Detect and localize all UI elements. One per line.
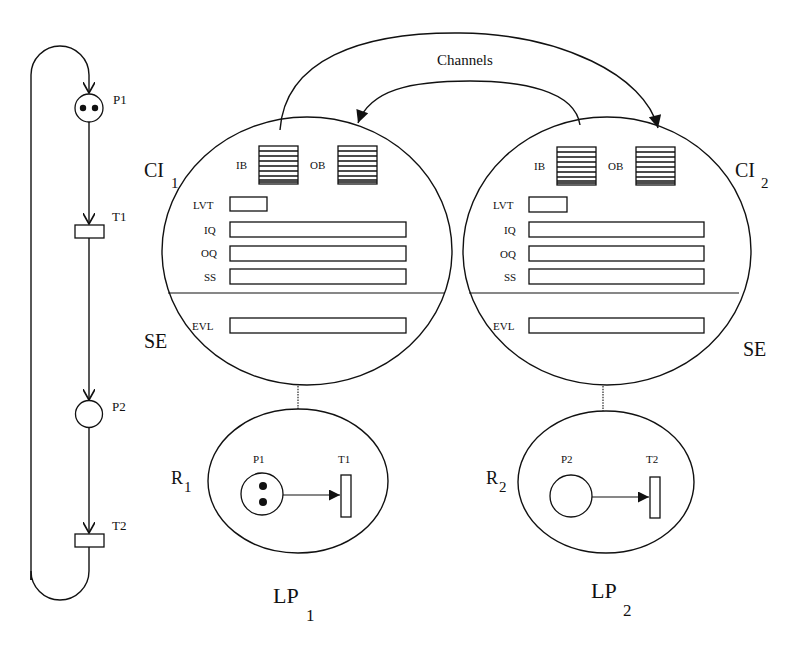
region-r1-transition-label: T1	[338, 453, 350, 465]
lvt-label-lp1: LVT	[193, 199, 214, 211]
evl-field-lp2	[529, 318, 704, 333]
region-r2-place	[550, 475, 592, 517]
oq-label-lp1: OQ	[201, 247, 217, 259]
transition-t1-label: T1	[112, 209, 126, 224]
token	[80, 105, 86, 111]
channel-lp2-to-lp1	[358, 81, 580, 125]
token	[259, 498, 267, 506]
region-r1-label: R	[171, 468, 183, 488]
region-r2-subscript: 2	[499, 479, 507, 495]
logical-process-lp1: CI 1 SE IB OB LV	[144, 117, 452, 625]
output-buffer-lp2	[636, 147, 675, 185]
oq-field-lp1	[230, 246, 406, 261]
ib-label-lp2: IB	[534, 160, 545, 172]
region-r1-place	[241, 473, 283, 515]
arc-t2-to-p1-top	[31, 46, 89, 580]
lp1-subscript: 1	[306, 606, 315, 625]
iq-label-lp1: IQ	[204, 224, 216, 236]
ci2-label: CI	[735, 159, 755, 181]
oq-label-lp2: OQ	[500, 248, 516, 260]
region-r1-subscript: 1	[184, 479, 192, 495]
lp1-label: LP	[273, 583, 299, 608]
region-r2-label: R	[486, 468, 498, 488]
input-buffer-lp2	[557, 147, 596, 185]
place-p2-label: P2	[112, 399, 126, 414]
transition-t1	[75, 225, 104, 238]
output-buffer-lp1	[338, 146, 377, 184]
input-buffer-lp1	[259, 146, 298, 184]
logical-process-lp2: CI 2 SE IB OB LVT	[463, 117, 769, 620]
region-r2-place-label: P2	[561, 453, 573, 465]
ss-label-lp2: SS	[504, 271, 516, 283]
se1-label: SE	[144, 330, 167, 352]
token	[259, 482, 267, 490]
ob-label-lp2: OB	[608, 160, 623, 172]
lvt-label-lp2: LVT	[493, 199, 514, 211]
iq-field-lp1	[230, 222, 406, 237]
lvt-field-lp2	[529, 197, 567, 212]
region-r2	[518, 411, 694, 553]
evl-field-lp1	[230, 318, 406, 333]
region-r2-transition-label: T2	[646, 453, 658, 465]
arc-t2-loop-bottom	[31, 547, 89, 600]
iq-field-lp2	[529, 222, 704, 237]
region-r1	[208, 409, 388, 553]
region-r1-transition	[341, 475, 351, 517]
global-petri-net: P1 T1 P2 T2	[31, 46, 127, 600]
evl-label-lp2: EVL	[493, 320, 515, 332]
ob-label-lp1: OB	[310, 159, 325, 171]
evl-label-lp1: EVL	[192, 320, 214, 332]
lp-petri-net-diagram: P1 T1 P2 T2 Channels CI 1 SE	[0, 0, 786, 657]
region-r2-transition	[650, 477, 660, 518]
lp2-label: LP	[591, 578, 617, 603]
channels-label: Channels	[437, 52, 493, 68]
transition-t2-label: T2	[112, 518, 126, 533]
ci1-label: CI	[144, 159, 164, 181]
ss-field-lp2	[529, 269, 704, 284]
transition-t2	[75, 534, 104, 547]
place-p1-label: P1	[113, 92, 127, 107]
ib-label-lp1: IB	[236, 159, 247, 171]
token	[92, 105, 98, 111]
ss-field-lp1	[230, 269, 406, 284]
se2-label: SE	[743, 338, 766, 360]
lp2-subscript: 2	[623, 601, 632, 620]
lvt-field-lp1	[230, 197, 267, 211]
region-r1-place-label: P1	[253, 453, 265, 465]
iq-label-lp2: IQ	[504, 224, 516, 236]
place-p2	[76, 401, 103, 428]
channels: Channels	[280, 33, 658, 130]
place-p1	[75, 94, 103, 122]
ss-label-lp1: SS	[204, 271, 216, 283]
oq-field-lp2	[529, 246, 704, 261]
ci2-subscript: 2	[761, 175, 769, 191]
ci1-subscript: 1	[171, 175, 179, 191]
